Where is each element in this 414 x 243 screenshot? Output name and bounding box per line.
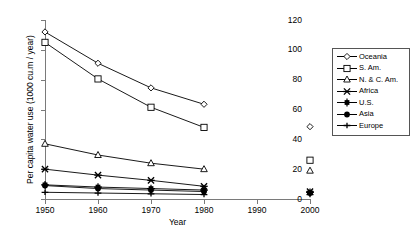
legend-item-africa[interactable]: Africa (336, 86, 406, 98)
legend-label: N. & C. Am. (358, 76, 398, 84)
legend-item-s-am[interactable]: S. Am. (336, 63, 406, 75)
series-canvas (45, 20, 320, 205)
legend-item-asia[interactable]: Asia (336, 109, 406, 121)
series-line (45, 192, 204, 194)
legend-marker-open-triangle-icon (336, 74, 358, 85)
x-axis-title: Year (45, 217, 310, 227)
series-line (45, 169, 204, 186)
chart-legend: OceaniaS. Am.N. & C. Am.AfricaU.S.AsiaEu… (332, 48, 410, 136)
legend-marker-cross-x-icon (336, 86, 358, 97)
legend-item-europe[interactable]: Europe (336, 120, 406, 132)
legend-marker-open-square-icon (336, 63, 358, 74)
legend-item-n-c-am[interactable]: N. & C. Am. (336, 74, 406, 86)
series-s-am (42, 39, 313, 163)
x-tick-label: 1970 (131, 206, 171, 215)
legend-item-u-s[interactable]: U.S. (336, 97, 406, 109)
legend-label: Oceania (358, 53, 387, 61)
legend-marker-plus-icon (336, 120, 358, 131)
legend-marker-open-diamond-icon (336, 51, 358, 62)
series-line (45, 186, 204, 192)
legend-label: Africa (358, 87, 378, 95)
series-n-c-am (42, 140, 314, 173)
series-oceania (42, 29, 313, 130)
plot-area: 020406080100120 195019601970198019902000… (45, 20, 310, 199)
x-tick-label: 1950 (25, 206, 65, 215)
legend-marker-filled-circle-icon (336, 109, 358, 120)
series-line (45, 42, 204, 127)
y-axis-title: Per capita water use (1000 cu.m / year) (23, 20, 37, 199)
legend-marker-filled-star-icon (336, 97, 358, 108)
legend-label: U.S. (358, 99, 374, 107)
x-tick-label: 1980 (184, 206, 224, 215)
x-tick-label: 1960 (78, 206, 118, 215)
legend-label: Europe (358, 122, 383, 130)
x-tick-label: 2000 (290, 206, 330, 215)
x-tick-label: 1990 (237, 206, 277, 215)
legend-label: Asia (358, 110, 374, 118)
legend-item-oceania[interactable]: Oceania (336, 51, 406, 63)
series-line (45, 144, 204, 169)
chart-figure: 020406080100120 195019601970198019902000… (0, 0, 414, 243)
legend-label: S. Am. (358, 64, 381, 72)
